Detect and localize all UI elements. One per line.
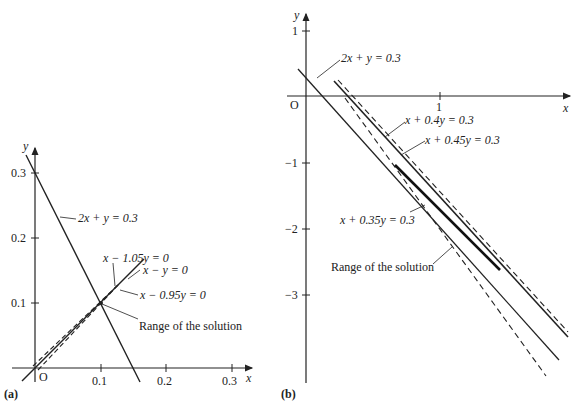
a-leader bbox=[128, 270, 140, 279]
b-x-label: x bbox=[562, 101, 569, 115]
b-label-line1: 2x + y = 0.3 bbox=[341, 51, 401, 65]
a-y-label: y bbox=[22, 139, 29, 153]
panel-a-label: (a) bbox=[4, 387, 18, 401]
panel-b-label: (b) bbox=[281, 387, 296, 401]
b-x-tick-label: 1 bbox=[436, 100, 442, 114]
b-y-tick-label: −2 bbox=[285, 222, 298, 236]
b-label-range: Range of the solution bbox=[331, 260, 434, 274]
a-y-tick-label: 0.1 bbox=[11, 296, 26, 310]
panel-a: y x O 0.1 0.2 0.3 0.1 0.2 0.3 2x + y = bbox=[4, 139, 252, 401]
b-y-label: y bbox=[293, 8, 300, 22]
b-label-line2: x + 0.4y = 0.3 bbox=[404, 113, 474, 127]
b-y-tick-label: −3 bbox=[285, 288, 298, 302]
b-label-line3: x + 0.45y = 0.3 bbox=[424, 133, 500, 147]
a-solution-point bbox=[99, 301, 103, 305]
a-x-label: x bbox=[245, 371, 252, 385]
panel-b: y x O 1 1 −1 −2 −3 2x + y = 0.3 x + 0.4 bbox=[281, 8, 570, 401]
b-leader bbox=[385, 122, 405, 137]
a-x-tick-label: 0.2 bbox=[157, 374, 172, 388]
a-y-tick-label: 0.2 bbox=[11, 231, 26, 245]
a-line-x-minus-y bbox=[22, 259, 144, 381]
figure: y x O 0.1 0.2 0.3 0.1 0.2 0.3 2x + y = bbox=[0, 0, 583, 411]
a-leader bbox=[113, 263, 115, 286]
a-origin: O bbox=[39, 370, 48, 384]
a-label-range: Range of the solution bbox=[139, 319, 242, 333]
a-x-tick-label: 0.1 bbox=[92, 374, 107, 388]
b-leader bbox=[401, 141, 425, 155]
b-label-line4: x + 0.35y = 0.3 bbox=[339, 213, 415, 227]
a-label-line1: 2x + y = 0.3 bbox=[78, 211, 138, 225]
b-leader bbox=[317, 60, 340, 78]
a-label-line3: x − y = 0 bbox=[142, 263, 188, 277]
a-line-2x-plus-y bbox=[26, 155, 140, 382]
b-y-tick-label: 1 bbox=[292, 24, 298, 38]
a-y-tick-label: 0.3 bbox=[11, 166, 26, 180]
b-origin: O bbox=[290, 98, 299, 112]
a-label-line4: x − 0.95y = 0 bbox=[139, 288, 206, 302]
b-leader bbox=[433, 247, 452, 264]
b-y-tick-label: −1 bbox=[285, 156, 298, 170]
a-leader bbox=[120, 290, 138, 295]
a-x-tick-label: 0.3 bbox=[222, 374, 237, 388]
a-leader bbox=[60, 217, 76, 219]
